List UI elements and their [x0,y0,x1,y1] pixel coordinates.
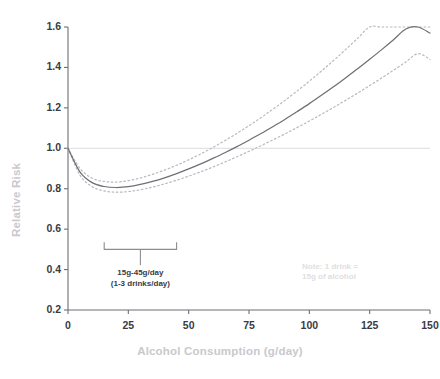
y-tick-label: 0.4 [20,263,61,275]
x-tick-label: 125 [345,319,395,331]
relative-risk-chart: Relative Risk Alcohol Consumption (g/day… [0,0,440,379]
y-tick-label: 1.2 [20,101,61,113]
y-tick-label: 1.6 [20,20,61,32]
moderate-intake-bracket-label: 15g-45g/day (1-3 drinks/day) [80,268,200,289]
x-axis-title-text: Alcohol Consumption (g/day) [0,345,440,357]
bracket-shape [104,242,176,249]
upper-confidence-band-line [68,26,430,182]
y-axis-ticks [64,27,68,310]
moderate-intake-bracket [104,242,176,265]
x-tick-label: 0 [43,319,93,331]
series-group [68,26,430,192]
x-tick-label: 25 [103,319,153,331]
note-line2: 15g of alcohol [302,272,358,283]
note-line1: Note: 1 drink = [302,262,358,273]
y-tick-label: 0.8 [20,182,61,194]
y-tick-label: 0.2 [20,303,61,315]
relative-risk-curve [68,27,430,188]
x-tick-label: 150 [405,319,440,331]
y-tick-label: 0.6 [20,222,61,234]
lower-confidence-band-line [68,54,430,193]
x-tick-label: 100 [284,319,334,331]
bracket-label-line1: 15g-45g/day [80,268,200,279]
x-tick-label: 50 [164,319,214,331]
x-tick-label: 75 [224,319,274,331]
bracket-label-line2: (1-3 drinks/day) [80,279,200,290]
y-tick-label: 1.0 [20,141,61,153]
y-tick-label: 1.4 [20,60,61,72]
x-axis-ticks [68,310,430,314]
drink-equivalence-note: Note: 1 drink = 15g of alcohol [302,262,358,283]
